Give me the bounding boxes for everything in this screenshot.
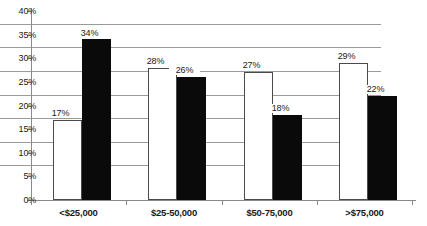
x-axis-label-3: >$75,000 [317, 208, 412, 218]
data-label-group0-series1: 17% [45, 109, 76, 118]
bar-group0-series2[interactable] [82, 39, 111, 200]
x-axis-label-2: $50-75,000 [222, 208, 317, 218]
bar-group3-series1[interactable] [339, 63, 368, 200]
data-label-group1-series2: 26% [169, 66, 200, 75]
x-tick-0 [31, 201, 32, 205]
x-tick-2 [222, 201, 223, 205]
x-axis-label-0: <$25,000 [31, 208, 126, 218]
data-label-group3-series2: 22% [360, 85, 391, 94]
data-label-group1-series1: 28% [140, 57, 171, 66]
bar-group1-series2[interactable] [177, 77, 206, 200]
data-label-group0-series2: 34% [74, 29, 105, 38]
x-tick-3 [317, 201, 318, 205]
bar-group3-series2[interactable] [368, 96, 397, 200]
bar-group1-series1[interactable] [148, 68, 177, 200]
data-label-group3-series1: 29% [331, 52, 362, 61]
bar-chart: 40% 35% 30% 25% 20% 15% 10% 5% 0% 17% 34… [0, 0, 427, 226]
x-axis-line [31, 200, 416, 201]
data-label-group2-series1: 27% [236, 61, 267, 70]
x-axis-label-1: $25-50,000 [126, 208, 222, 218]
x-tick-1 [126, 201, 127, 205]
x-tick-4 [412, 201, 413, 205]
bar-group2-series2[interactable] [273, 115, 302, 200]
bar-group0-series1[interactable] [53, 120, 82, 200]
data-label-group2-series2: 18% [265, 104, 296, 113]
bar-group2-series1[interactable] [244, 72, 273, 200]
plot-area [31, 11, 412, 200]
